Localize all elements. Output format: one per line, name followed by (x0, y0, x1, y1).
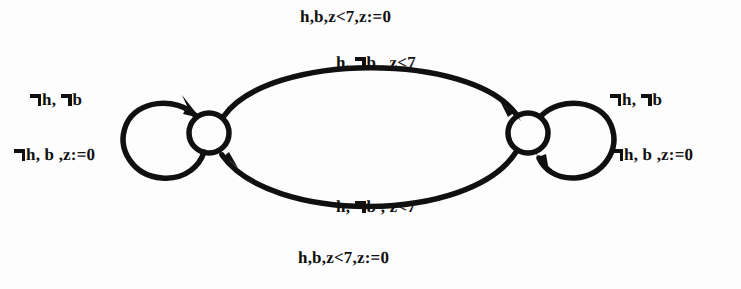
label-right-loop-lower: h, b ,z:=0 (612, 146, 693, 163)
label-right-loop-lower-suffix: h, b ,z:=0 (624, 145, 693, 164)
state-circle-left (189, 113, 229, 153)
label-bottom-arc-outer: h,b,z<7,z:=0 (298, 249, 389, 266)
label-top-arc-inner: h, b , z<7 (336, 54, 416, 71)
state-diagram-figure: h,b,z<7,z:=0 h, b , z<7 h, b , z<7 h,b,z… (0, 0, 741, 289)
logical-not-icon (355, 57, 366, 69)
label-left-loop-lower-suffix: h, b ,z:=0 (26, 145, 95, 164)
logical-not-icon (641, 94, 652, 106)
label-top-arc-inner-suffix: b , z<7 (367, 53, 416, 72)
logical-not-icon (355, 201, 366, 213)
label-top-arc-inner-prefix: h, (336, 53, 355, 72)
label-right-loop-upper-suffix: b (653, 90, 663, 109)
logical-not-icon (30, 94, 41, 106)
label-bottom-arc-inner-suffix: b , z<7 (367, 197, 416, 216)
transition-arc-top (224, 68, 516, 116)
label-top-arc-outer: h,b,z<7,z:=0 (300, 8, 391, 25)
label-left-loop-upper: h, b (30, 91, 82, 108)
label-right-loop-upper: h, b (610, 91, 662, 108)
label-left-loop-lower: h, b ,z:=0 (14, 146, 95, 163)
label-bottom-arc-inner: h, b , z<7 (336, 198, 416, 215)
label-bottom-arc-outer-text: h,b,z<7,z:=0 (298, 248, 389, 267)
state-circle-right (508, 113, 548, 153)
logical-not-icon (61, 94, 72, 106)
logical-not-icon (612, 149, 623, 161)
logical-not-icon (610, 94, 621, 106)
label-left-loop-upper-suffix: b (73, 90, 83, 109)
label-top-arc-outer-text: h,b,z<7,z:=0 (300, 7, 391, 26)
label-bottom-arc-inner-prefix: h, (336, 197, 355, 216)
label-left-loop-upper-mid: h, (42, 90, 61, 109)
self-loop-right (539, 103, 614, 178)
logical-not-icon (14, 149, 25, 161)
label-right-loop-upper-mid: h, (622, 90, 641, 109)
